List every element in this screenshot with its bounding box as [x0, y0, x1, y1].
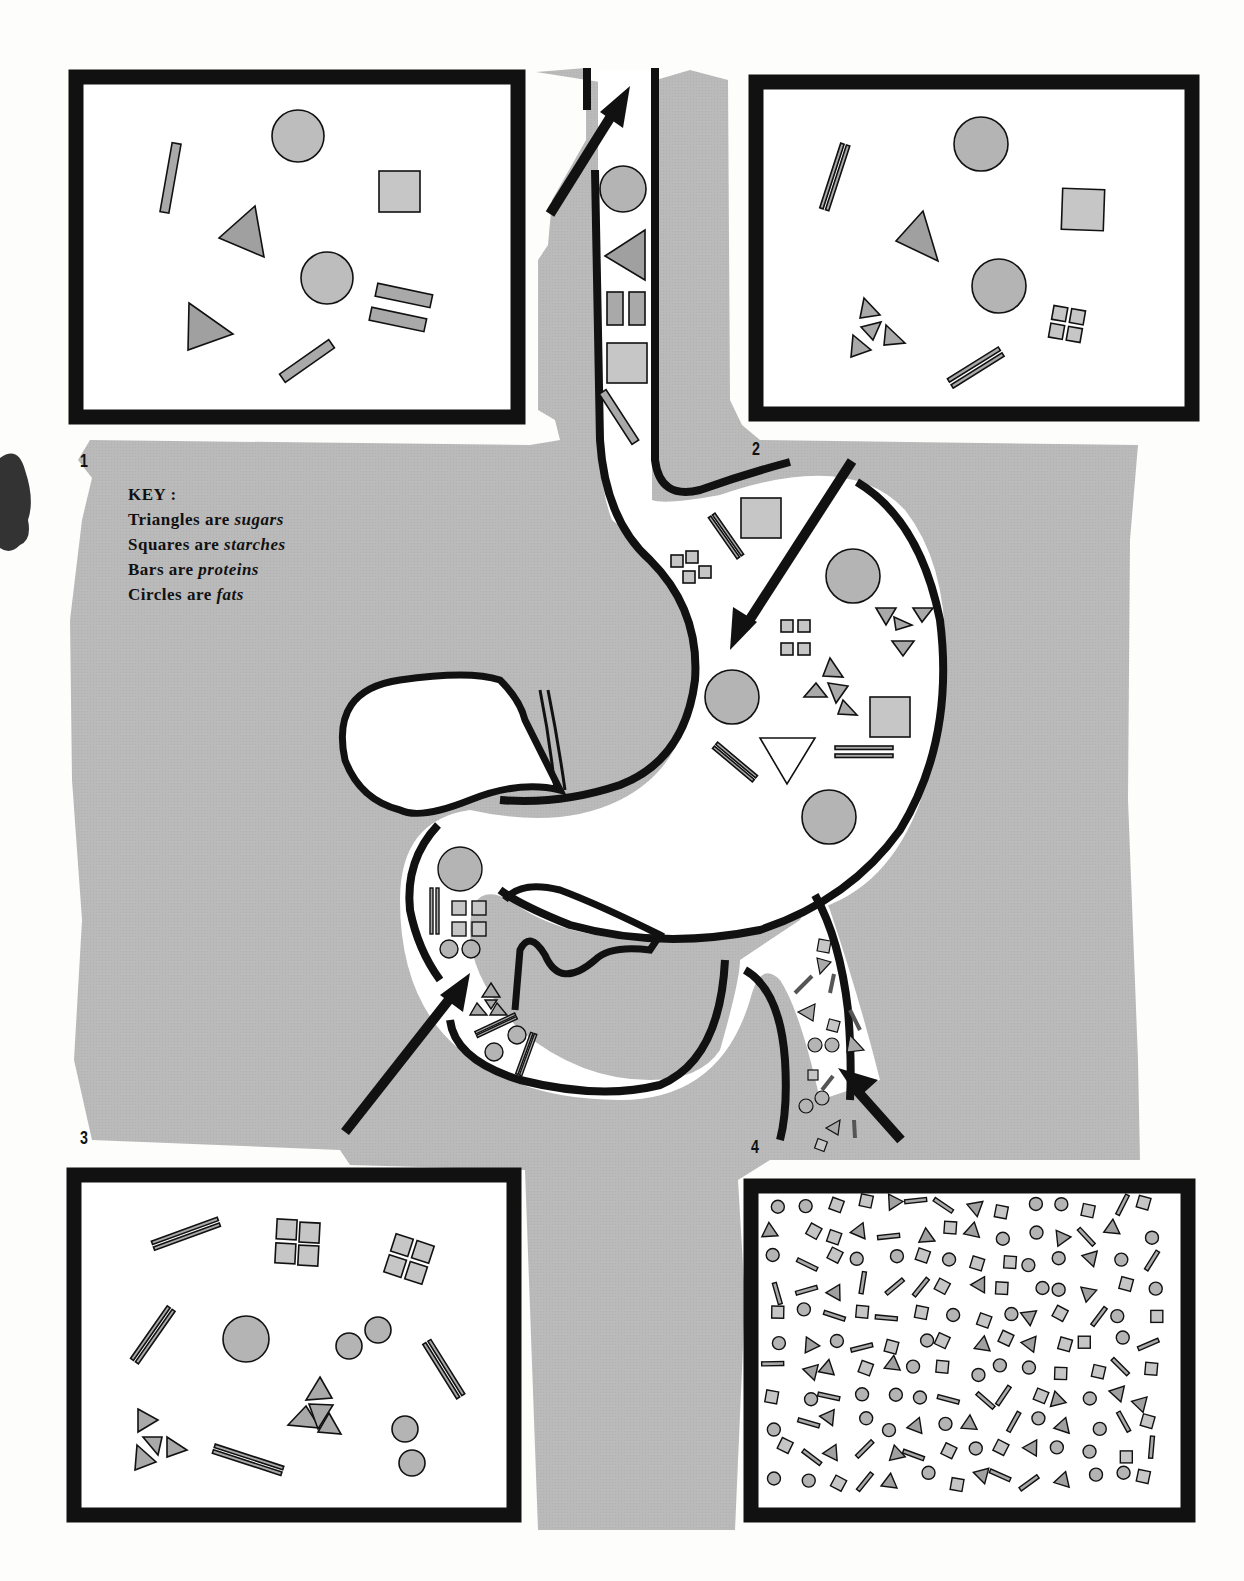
- digested-particle: [767, 1472, 780, 1485]
- panel-number-1: 1: [80, 450, 88, 472]
- digested-particle: [1022, 1259, 1035, 1272]
- digested-particle: [970, 1256, 985, 1271]
- digested-particle: [1145, 1231, 1158, 1244]
- digested-particle: [907, 1360, 920, 1373]
- digested-particle: [1120, 1451, 1132, 1463]
- digested-particle: [1083, 1392, 1096, 1405]
- digested-particle: [802, 1474, 815, 1487]
- digested-particle: [856, 1305, 869, 1318]
- digested-particle: [1058, 1337, 1073, 1352]
- digested-particle: [943, 1253, 956, 1266]
- digested-particle: [890, 1250, 903, 1263]
- digested-particle: [767, 1423, 780, 1436]
- digested-particle: [1145, 1362, 1158, 1375]
- digested-particle: [1052, 1252, 1065, 1265]
- digested-particle: [1052, 1283, 1065, 1296]
- digested-particle: [939, 1417, 952, 1430]
- digested-particle: [762, 1361, 784, 1365]
- digested-particle: [1149, 1282, 1162, 1295]
- digested-particle: [766, 1248, 779, 1261]
- digested-particle: [1030, 1226, 1043, 1239]
- panel-number-4: 4: [751, 1136, 759, 1158]
- digested-particle: [1022, 1361, 1035, 1374]
- digested-particle: [972, 1368, 985, 1381]
- digested-particle: [882, 1424, 895, 1437]
- digested-particle: [1116, 1331, 1129, 1344]
- digested-particle: [1090, 1468, 1103, 1481]
- digested-particle: [1140, 1414, 1155, 1429]
- digested-particle: [993, 1359, 1006, 1372]
- digested-particle: [913, 1391, 926, 1404]
- digested-particle: [936, 1360, 949, 1373]
- digested-particle: [1050, 1441, 1063, 1454]
- digested-particle: [1136, 1469, 1150, 1483]
- digested-particle: [1093, 1422, 1106, 1435]
- digested-particle: [1151, 1310, 1163, 1322]
- digested-particle: [772, 1337, 785, 1350]
- digested-particle: [805, 1393, 818, 1406]
- digested-particle: [765, 1390, 779, 1404]
- digested-particle: [1091, 1365, 1105, 1379]
- digested-particle: [771, 1200, 784, 1213]
- digested-particle: [860, 1412, 873, 1425]
- digested-particle: [1005, 1308, 1018, 1321]
- digested-particle: [995, 1282, 1008, 1295]
- digested-particle: [1029, 1197, 1042, 1210]
- digested-particle: [856, 1388, 869, 1401]
- digested-particle: [1004, 1256, 1017, 1269]
- panel-number-3: 3: [80, 1127, 88, 1149]
- digested-particle: [772, 1306, 784, 1318]
- digested-particle: [1115, 1253, 1128, 1266]
- digested-particle: [947, 1308, 960, 1321]
- key-item-proteins: Bars are proteins: [128, 557, 286, 582]
- digested-particle: [850, 1252, 863, 1265]
- key-item-fats: Circles are fats: [128, 582, 286, 607]
- digested-particle: [1055, 1367, 1067, 1379]
- key-title: KEY :: [128, 482, 286, 507]
- digested-particle: [799, 1200, 812, 1213]
- digested-particle: [944, 1221, 957, 1234]
- digested-particle: [1136, 1195, 1151, 1210]
- digested-particle: [884, 1339, 899, 1354]
- digested-particle: [950, 1478, 964, 1492]
- digestion-diagram: [0, 0, 1244, 1581]
- digested-particle: [922, 1466, 935, 1479]
- digested-particle: [969, 1442, 982, 1455]
- digested-particle: [1083, 1445, 1096, 1458]
- digested-particle: [1055, 1198, 1068, 1211]
- digested-particle: [996, 1232, 1009, 1245]
- digested-particle: [1119, 1277, 1134, 1292]
- digested-particle: [1036, 1281, 1049, 1294]
- digested-particle: [914, 1305, 928, 1319]
- digested-particle: [994, 1205, 1008, 1219]
- digested-particle: [1078, 1336, 1090, 1348]
- digested-particle: [859, 1194, 873, 1208]
- ink-blot: [0, 454, 31, 551]
- digested-particle: [1032, 1412, 1045, 1425]
- digested-particle: [797, 1303, 810, 1316]
- digested-particle: [921, 1334, 934, 1347]
- panel-number-2: 2: [752, 438, 760, 460]
- digested-particle: [889, 1388, 902, 1401]
- key-item-sugars: Triangles are sugars: [128, 507, 286, 532]
- digested-particle: [1081, 1203, 1095, 1217]
- key-item-starches: Squares are starches: [128, 532, 286, 557]
- digested-particle: [1111, 1310, 1124, 1323]
- digested-particle: [1117, 1466, 1130, 1479]
- legend-key: KEY : Triangles are sugars Squares are s…: [128, 482, 286, 607]
- digested-particle: [830, 1334, 843, 1347]
